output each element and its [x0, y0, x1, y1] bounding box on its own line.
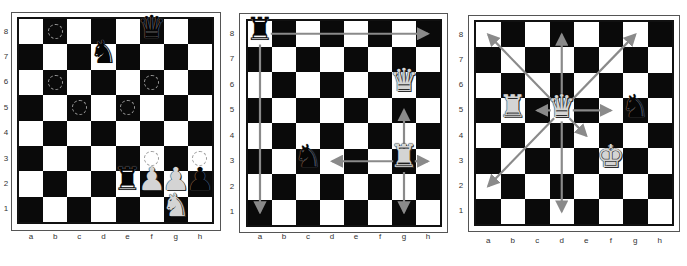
- file-label: b: [278, 232, 290, 241]
- target-circle-icon: [48, 75, 63, 90]
- square-c3: [525, 148, 550, 173]
- square-b4: [43, 121, 67, 146]
- square-a2: [248, 174, 272, 200]
- square-d2: [550, 174, 575, 199]
- board-1: ♛♞♜♟♟♞♟: [17, 17, 214, 224]
- square-g4: [623, 123, 648, 148]
- square-d8: [550, 22, 575, 47]
- rank-label: 3: [0, 154, 12, 163]
- square-a3: [476, 148, 501, 173]
- square-e3: [116, 146, 140, 171]
- square-g4: [392, 123, 416, 149]
- square-d6: [91, 70, 115, 95]
- square-a2: [19, 171, 43, 196]
- square-b8: [272, 21, 296, 47]
- file-label: h: [654, 236, 666, 245]
- file-label: a: [482, 236, 494, 245]
- square-g4: [164, 121, 188, 146]
- rank-label: 5: [0, 103, 12, 112]
- square-d8: [320, 21, 344, 47]
- square-g2: [392, 174, 416, 200]
- rank-label: 3: [455, 156, 467, 165]
- square-e3: [344, 149, 368, 175]
- square-d5: [320, 98, 344, 124]
- square-h8: [648, 22, 673, 47]
- board-grid: [248, 21, 440, 225]
- square-b6: [501, 73, 526, 98]
- square-f1: [140, 197, 164, 222]
- square-b2: [501, 174, 526, 199]
- square-f1: [599, 199, 624, 224]
- rank-label: 3: [226, 156, 238, 165]
- square-e4: [344, 123, 368, 149]
- square-c6: [67, 70, 91, 95]
- file-label: a: [254, 232, 266, 241]
- square-a6: [476, 73, 501, 98]
- target-circle-icon: [144, 75, 159, 90]
- square-g7: [164, 44, 188, 69]
- square-h1: [188, 197, 212, 222]
- square-a6: [19, 70, 43, 95]
- square-d2: [91, 171, 115, 196]
- rank-label: 1: [226, 207, 238, 216]
- square-e5: [574, 98, 599, 123]
- square-f2: [599, 174, 624, 199]
- square-f3: [368, 149, 392, 175]
- square-e4: [116, 121, 140, 146]
- square-h4: [188, 121, 212, 146]
- square-f2: [368, 174, 392, 200]
- square-g5: [164, 95, 188, 120]
- square-c2: [296, 174, 320, 200]
- board-3: ♛♜♚♞: [474, 20, 674, 226]
- square-a1: [248, 200, 272, 226]
- square-d1: [320, 200, 344, 226]
- square-e8: [344, 21, 368, 47]
- square-h2: [416, 174, 440, 200]
- square-d3: [91, 146, 115, 171]
- square-e6: [574, 73, 599, 98]
- square-c7: [525, 47, 550, 72]
- square-a4: [476, 123, 501, 148]
- file-label: e: [580, 236, 592, 245]
- rank-label: 5: [226, 105, 238, 114]
- square-h5: [416, 98, 440, 124]
- square-b5: [43, 95, 67, 120]
- square-b7: [43, 44, 67, 69]
- square-g7: [623, 47, 648, 72]
- square-b1: [43, 197, 67, 222]
- square-g8: [392, 21, 416, 47]
- square-a4: [248, 123, 272, 149]
- square-b5: [272, 98, 296, 124]
- square-c2: [67, 171, 91, 196]
- square-h7: [188, 44, 212, 69]
- rank-label: 2: [0, 179, 12, 188]
- rank-label: 2: [226, 182, 238, 191]
- square-c3: [67, 146, 91, 171]
- square-h6: [648, 73, 673, 98]
- square-h6: [188, 70, 212, 95]
- square-a8: [476, 22, 501, 47]
- square-g7: [392, 47, 416, 73]
- square-f6: [599, 73, 624, 98]
- square-b1: [272, 200, 296, 226]
- square-d8: [91, 19, 115, 44]
- file-label: c: [302, 232, 314, 241]
- square-e8: [116, 19, 140, 44]
- square-g8: [623, 22, 648, 47]
- square-c5: [296, 98, 320, 124]
- target-circle-icon: [72, 100, 87, 115]
- square-b2: [43, 171, 67, 196]
- square-g2: [164, 171, 188, 196]
- square-e6: [116, 70, 140, 95]
- square-a5: [248, 98, 272, 124]
- file-label: f: [146, 232, 158, 241]
- square-g2: [623, 174, 648, 199]
- file-label: h: [422, 232, 434, 241]
- square-a5: [476, 98, 501, 123]
- square-g3: [623, 148, 648, 173]
- square-h3: [416, 149, 440, 175]
- square-f4: [599, 123, 624, 148]
- file-label: d: [97, 232, 109, 241]
- rank-label: 4: [0, 128, 12, 137]
- square-g1: [623, 199, 648, 224]
